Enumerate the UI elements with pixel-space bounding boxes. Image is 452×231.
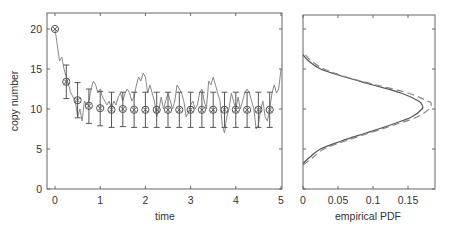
errorbar-point [210,92,217,127]
y-tick-label: 10 [30,103,42,115]
x-tick-label: 0 [300,194,306,206]
right-panel: 00.050.10.15 empirical PDF [300,15,435,222]
right-x-ticks: 00.050.10.15 [300,15,418,206]
errorbar-point [198,92,205,127]
x-tick-label: 0.05 [328,194,349,206]
errorbar-point [142,92,149,127]
left-panel: 012345 05101520 time copy number [8,13,284,222]
errorbar-point [131,92,138,127]
errorbar-point [85,89,92,123]
figure: 012345 05101520 time copy number 00.050.… [0,0,452,231]
right-y-ticks [303,29,435,189]
errorbar-point [187,92,194,127]
errorbar-point [176,92,183,127]
x-tick-label: 0 [52,194,58,206]
x-tick-label: 3 [188,194,194,206]
errorbar-point [108,92,115,127]
x-tick-label: 5 [278,194,284,206]
empirical-pdf-curve [303,55,423,164]
errorbar-point [164,92,171,127]
errorbar-point [244,92,251,127]
y-tick-label: 5 [36,143,42,155]
errorbar-point [266,92,273,127]
errorbar-point [119,92,126,126]
left-y-axis-label: copy number [8,70,20,131]
y-tick-label: 20 [30,23,42,35]
x-tick-label: 1 [97,194,103,206]
y-tick-label: 0 [36,183,42,195]
right-x-axis-label: empirical PDF [335,210,401,222]
x-tick-label: 4 [233,194,239,206]
right-plot-frame [303,15,435,189]
y-tick-label: 15 [30,63,42,75]
mean-markers-with-errorbars [51,25,273,127]
x-tick-label: 0.1 [366,194,381,206]
x-tick-label: 0.15 [398,194,419,206]
pdf-curves [303,55,431,165]
x-tick-label: 2 [142,194,148,206]
left-x-axis-label: time [155,210,175,222]
